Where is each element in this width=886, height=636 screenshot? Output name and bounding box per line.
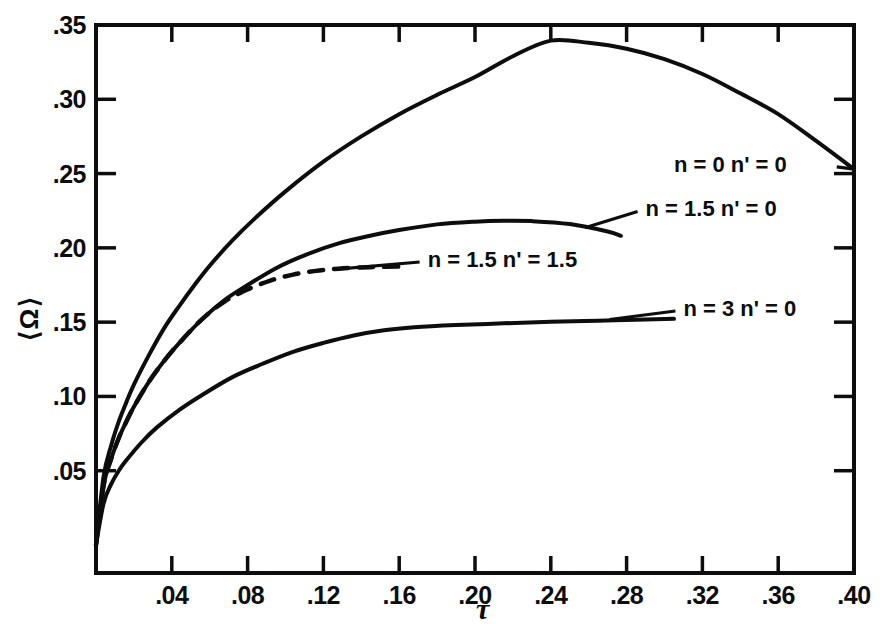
x-tick-label-1: .08 <box>231 581 264 610</box>
figure-canvas: ⟨Ω⟩ τ .05.10.15.20.25.30.35.04.08.12.16.… <box>0 0 886 636</box>
leader-line-0 <box>837 167 854 169</box>
x-tick-label-3: .16 <box>383 581 416 610</box>
data-curves <box>96 40 854 545</box>
x-tick-label-4: .20 <box>458 581 491 610</box>
x-tick-label-5: .24 <box>534 581 567 610</box>
x-tick-label-2: .12 <box>307 581 340 610</box>
curve-series-3 <box>96 319 674 545</box>
y-tick-label-0: .05 <box>14 456 86 485</box>
y-tick-label-2: .15 <box>14 308 86 337</box>
x-tick-label-0: .04 <box>155 581 188 610</box>
y-tick-label-1: .10 <box>14 382 86 411</box>
curve-series-2 <box>96 267 399 545</box>
curve-label-3: n = 3 n' = 0 <box>683 296 796 322</box>
curve-label-0: n = 0 n' = 0 <box>674 152 787 178</box>
x-tick-label-9: .40 <box>837 581 870 610</box>
curve-label-2: n = 1.5 n' = 1.5 <box>428 247 578 273</box>
y-tick-label-4: .25 <box>14 159 86 188</box>
curve-series-0 <box>96 40 854 545</box>
leader-line-2 <box>335 262 420 269</box>
y-tick-label-3: .20 <box>14 233 86 262</box>
y-tick-label-5: .30 <box>14 85 86 114</box>
leader-line-1 <box>585 211 638 227</box>
x-tick-label-6: .28 <box>610 581 643 610</box>
x-tick-label-8: .36 <box>762 581 795 610</box>
y-tick-label-6: .35 <box>14 11 86 40</box>
curve-label-1: n = 1.5 n' = 0 <box>646 196 777 222</box>
x-tick-label-7: .32 <box>686 581 719 610</box>
